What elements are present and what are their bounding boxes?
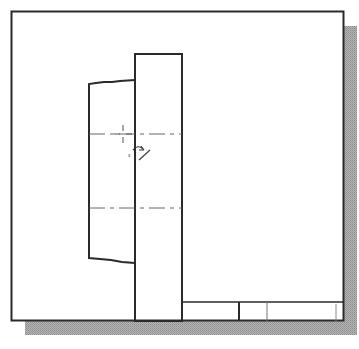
drawing-svg[interactable]: x bbox=[0, 0, 359, 349]
sheet-border bbox=[12, 12, 344, 321]
drawing-canvas[interactable]: x bbox=[0, 0, 359, 349]
